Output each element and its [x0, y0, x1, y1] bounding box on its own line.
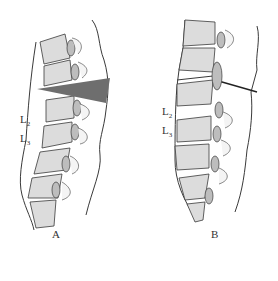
level-label-l2: L2: [20, 113, 30, 128]
spine-illustration-b: [139, 0, 278, 281]
caption-b: B: [211, 228, 218, 240]
level-label-l3: L3: [20, 132, 30, 147]
caption-a: A: [52, 228, 60, 240]
level-label-l3: L3: [162, 124, 172, 139]
level-label-l2: L2: [162, 105, 172, 120]
panel-a: L2 L3 A: [0, 0, 139, 281]
panel-b: L2 L3 B: [139, 0, 278, 281]
